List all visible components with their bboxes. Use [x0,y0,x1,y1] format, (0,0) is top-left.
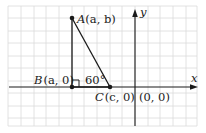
point-b-coords: (a, 0) [43,73,73,87]
coordinate-diagram: A(a, b) B(a, 0) C(c, 0) 60° (0, 0) x y [0,0,206,133]
point-a [70,16,75,21]
y-axis-arrow-icon [132,9,138,17]
point-a-name: A [76,12,85,26]
point-c-name: C [95,90,104,104]
point-a-coords: (a, b) [85,12,116,26]
point-a-label: A(a, b) [76,12,116,26]
point-c-label: C(c, 0) [95,90,135,104]
origin-label: (0, 0) [139,90,170,104]
point-b-name: B [33,73,42,87]
y-axis-label: y [139,5,147,19]
point-b-label: B(a, 0) [33,73,74,87]
point-c-coords: (c, 0) [105,90,135,104]
x-axis-label: x [191,71,198,85]
axes [9,9,198,126]
point-c [108,85,113,90]
angle-label: 60° [85,73,105,87]
